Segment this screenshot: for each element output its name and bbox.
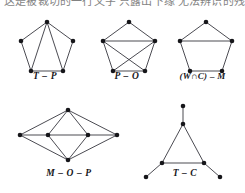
- edge-innerright-top: [68, 110, 88, 135]
- edge-top-upperright: [206, 22, 232, 41]
- vertex-dot-inner-right: [86, 133, 91, 138]
- caption-wc-m: (W∩C) – M: [160, 71, 245, 81]
- vertex-dot-top: [45, 20, 50, 25]
- clipped-header-strip: 这是被裁切的一行文字 只露出下缘 无法辨识的残留笔画: [0, 0, 245, 9]
- vertex-dot-far-right: [115, 133, 120, 138]
- edge-upperleft-bottomleft: [103, 41, 113, 71]
- figure-t-p-graph: [6, 10, 84, 76]
- edge-group: [146, 106, 220, 177]
- edge-upperright-bottomright: [145, 41, 155, 71]
- edge-top-bottomright: [47, 22, 63, 71]
- vertex-dot-top: [204, 20, 209, 25]
- figure-wc-m: [165, 10, 243, 76]
- vertex-dot-upper-left: [19, 39, 24, 44]
- edge-innerright-bottom: [68, 135, 88, 160]
- edge-farright-top: [68, 110, 117, 135]
- vertex-dot-upper-right: [153, 39, 158, 44]
- edge-group: [21, 22, 73, 71]
- clipped-header-text: 这是被裁切的一行文字 只露出下缘 无法辨识的残留笔画: [4, 0, 245, 8]
- edge-top-upperleft: [21, 22, 47, 41]
- vertex-dot-far-left: [18, 133, 23, 138]
- edge-farleft-bottom: [20, 135, 68, 160]
- vertex-dot-pendant-top: [181, 104, 186, 109]
- edge-innerleft-bottom: [48, 135, 68, 160]
- caption-p-o: P – O: [88, 71, 166, 81]
- vertex-dot-inner-left: [46, 133, 51, 138]
- vertex-dot-base-right: [202, 161, 207, 166]
- vertex-dot-base-left: [160, 161, 165, 166]
- edge-upperright-bottomright: [222, 41, 232, 71]
- caption-t-c: T – C: [143, 168, 227, 178]
- figure-m-o-p: [12, 102, 126, 169]
- edge-top-upperright: [47, 22, 73, 41]
- edge-top-upperleft: [180, 22, 206, 41]
- vertex-dot-bottom: [66, 158, 71, 163]
- vertex-dot-apex: [181, 122, 186, 127]
- edge-top-upperleft: [103, 22, 129, 41]
- vertex-dot-upper-left: [178, 39, 183, 44]
- figure-p-o: [88, 10, 166, 76]
- edge-farleft-top: [20, 110, 68, 135]
- vertex-dot-top: [66, 108, 71, 113]
- caption-m-o-p: M – O – P: [12, 168, 126, 178]
- vertex-group: [178, 20, 235, 74]
- figure-p-o-graph: [88, 10, 166, 76]
- edge-upperright-bottomleft: [113, 41, 155, 71]
- figure-t-p: [6, 10, 84, 76]
- edge-top-upperright: [129, 22, 155, 41]
- vertex-group: [19, 20, 76, 74]
- figure-wc-m-graph: [165, 10, 243, 76]
- edge-upperleft-bottomleft: [21, 41, 31, 71]
- edge-group: [20, 110, 117, 160]
- edge-upperleft-bottomleft: [180, 41, 190, 71]
- vertex-dot-upper-left: [101, 39, 106, 44]
- edge-apex-baseright: [183, 124, 204, 163]
- vertex-dot-top: [127, 20, 132, 25]
- vertex-group: [101, 20, 158, 74]
- edge-group: [103, 22, 155, 71]
- edge-innerleft-top: [48, 110, 68, 135]
- vertex-dot-upper-right: [71, 39, 76, 44]
- figure-m-o-p-graph: [12, 102, 126, 169]
- edge-top-bottomleft: [31, 22, 47, 71]
- caption-t-p: T – P: [6, 71, 84, 81]
- edge-farright-bottom: [68, 135, 117, 160]
- edge-apex-baseleft: [162, 124, 183, 163]
- vertex-dot-upper-right: [230, 39, 235, 44]
- figure-page: 这是被裁切的一行文字 只露出下缘 无法辨识的残留笔画 T – P: [0, 0, 245, 193]
- edge-group: [180, 22, 232, 71]
- edge-upperright-bottomright: [63, 41, 73, 71]
- edge-upperleft-bottomright: [103, 41, 145, 71]
